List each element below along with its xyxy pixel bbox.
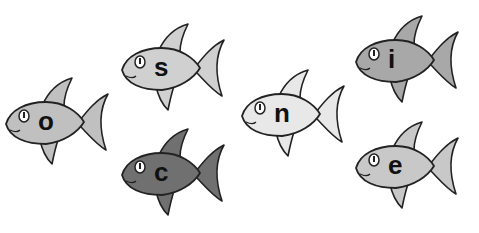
- fish-e: e: [352, 118, 460, 210]
- fish-letter: s: [154, 54, 168, 80]
- fish-letter: n: [274, 100, 290, 126]
- fish-letter: o: [38, 108, 54, 134]
- fish-i: i: [352, 12, 460, 104]
- fish-letter: c: [154, 159, 168, 185]
- fish-icon: [118, 125, 226, 217]
- fish-o: o: [2, 74, 110, 166]
- fish-icon: [238, 66, 346, 158]
- fish-n: n: [238, 66, 346, 158]
- fish-c: c: [118, 125, 226, 217]
- fish-s: s: [118, 20, 226, 112]
- fish-icon: [118, 20, 226, 112]
- fish-letter: e: [388, 152, 402, 178]
- fish-icon: [352, 118, 460, 210]
- fish-icon: [352, 12, 460, 104]
- fish-letter: i: [388, 46, 395, 72]
- fish-icon: [2, 74, 110, 166]
